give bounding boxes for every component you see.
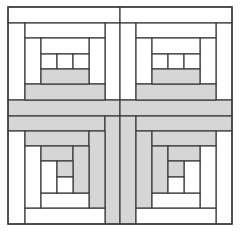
patch-light [57, 177, 73, 193]
patch-dark [136, 84, 216, 100]
patch-dark [89, 131, 105, 208]
patch-light [136, 23, 216, 38]
patch-dark [136, 116, 232, 131]
patch-light [200, 38, 216, 84]
patch-light [184, 54, 200, 69]
patch-dark [41, 69, 89, 84]
patch-light [120, 7, 232, 23]
patch-dark [105, 116, 120, 224]
patch-light [152, 54, 168, 69]
quadrant-top-left [8, 7, 120, 116]
patch-dark [8, 116, 105, 131]
patch-light [168, 177, 184, 193]
patch-light [120, 23, 136, 100]
patch-dark [25, 131, 89, 146]
patch-light [25, 146, 41, 208]
patch-dark [120, 116, 136, 224]
patch-light [184, 161, 200, 193]
patch-light [152, 38, 200, 54]
patch-light [216, 23, 232, 100]
patch-light [41, 161, 57, 193]
patch-dark [168, 146, 200, 161]
patch-light [105, 23, 120, 100]
patch-dark [57, 161, 73, 177]
quadrant-bottom-left [8, 116, 120, 224]
patch-dark [152, 146, 168, 193]
patch-dark [120, 100, 232, 116]
quadrant-top-right [120, 7, 232, 116]
patch-light [152, 193, 200, 208]
patch-light [8, 23, 25, 100]
patch-dark [8, 100, 120, 116]
patch-light [136, 208, 216, 224]
patch-light [41, 193, 89, 208]
patch-light [57, 54, 73, 69]
patch-light [8, 131, 25, 224]
patch-light [41, 38, 89, 54]
patch-light [41, 54, 57, 69]
patch-dark [168, 161, 184, 177]
patch-light [89, 38, 105, 84]
patch-light [25, 208, 105, 224]
patch-light [25, 38, 41, 84]
patch-light [25, 23, 105, 38]
quilt-diagram [0, 0, 240, 236]
patch-dark [152, 131, 216, 146]
patch-dark [73, 146, 89, 193]
quadrant-bottom-right [120, 116, 232, 224]
patch-light [200, 146, 216, 208]
patch-dark [152, 69, 200, 84]
patch-dark [136, 131, 152, 208]
patch-light [8, 7, 120, 23]
quilt-quadrants [8, 7, 232, 224]
patch-light [73, 54, 89, 69]
patch-light [168, 54, 184, 69]
patch-light [136, 38, 152, 84]
patch-dark [25, 84, 105, 100]
patch-dark [41, 146, 73, 161]
patch-light [216, 131, 232, 224]
